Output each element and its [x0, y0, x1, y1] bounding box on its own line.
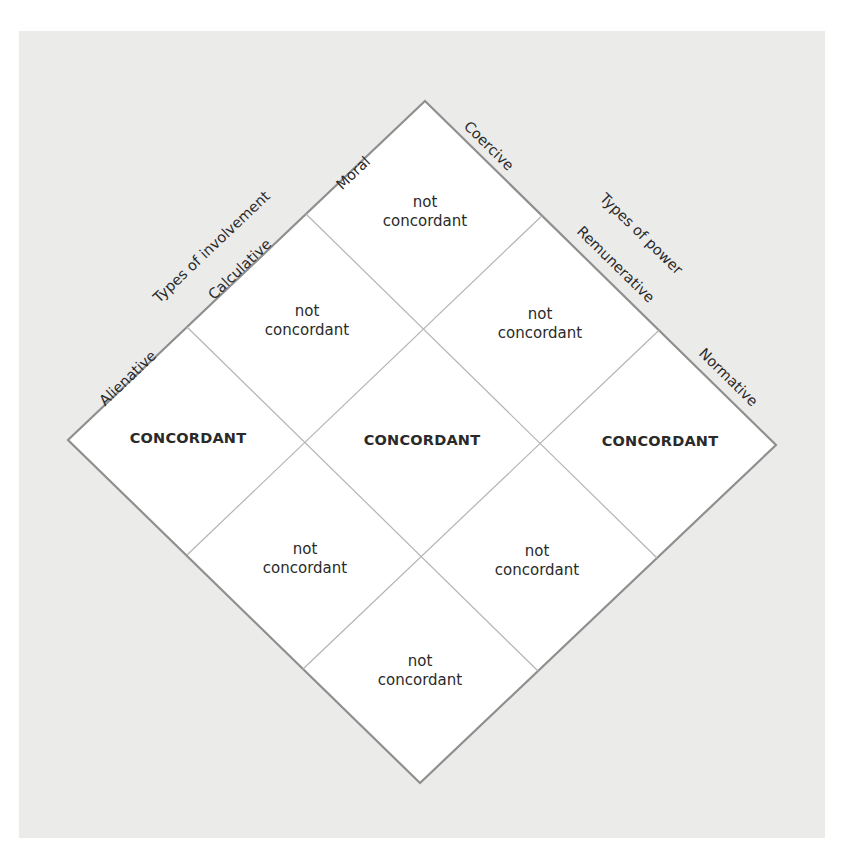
cell-coercive-moral: not concordant	[383, 193, 467, 231]
cell-text-line1: not	[495, 542, 579, 561]
cell-text-line2: concordant	[378, 671, 462, 690]
cell-text-line2: concordant	[263, 559, 347, 578]
cell-remunerative-alienative: not concordant	[263, 540, 347, 578]
cell-text-line2: concordant	[498, 324, 582, 343]
cell-text-line1: not	[498, 305, 582, 324]
cell-remunerative-moral: not concordant	[498, 305, 582, 343]
cell-text-line2: concordant	[495, 561, 579, 580]
cell-text-line1: not	[378, 652, 462, 671]
cell-text-line2: concordant	[265, 321, 349, 340]
cell-text-line1: not	[265, 302, 349, 321]
cell-coercive-calculative: not concordant	[265, 302, 349, 340]
cell-text-line2: concordant	[383, 212, 467, 231]
cell-normative-calculative: not concordant	[495, 542, 579, 580]
cell-normative-moral: CONCORDANT	[602, 432, 719, 451]
cell-text-concordant: CONCORDANT	[602, 433, 719, 449]
cell-text-concordant: CONCORDANT	[364, 432, 481, 448]
cell-text-concordant: CONCORDANT	[130, 430, 247, 446]
cell-normative-alienative: not concordant	[378, 652, 462, 690]
cell-text-line1: not	[383, 193, 467, 212]
cell-text-line1: not	[263, 540, 347, 559]
cell-coercive-alienative: CONCORDANT	[130, 429, 247, 448]
cell-remunerative-calculative: CONCORDANT	[364, 431, 481, 450]
compliance-typology-diamond	[0, 0, 845, 858]
